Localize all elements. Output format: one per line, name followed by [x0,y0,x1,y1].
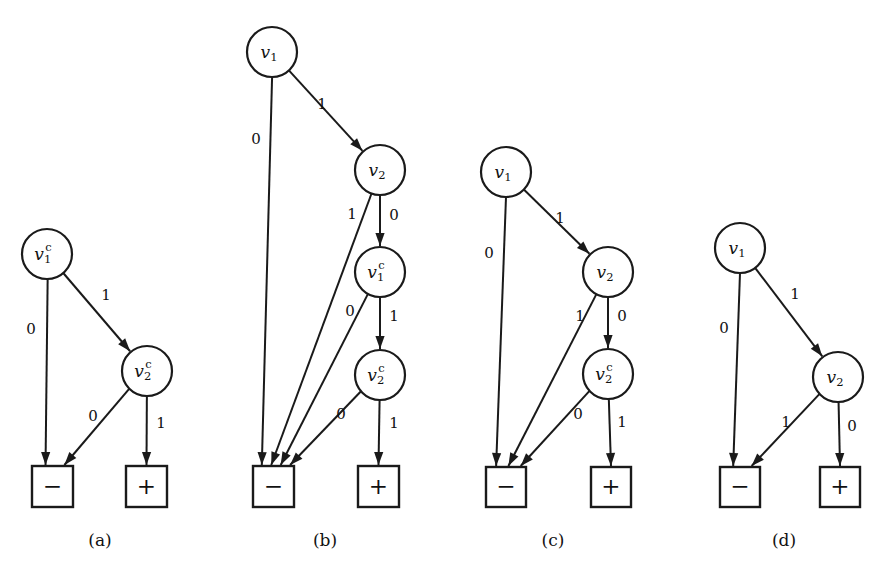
node-a-v2c[interactable]: v2c [122,346,172,396]
arrowhead-b-v1c-to-neg [281,451,291,465]
terminal-d-neg[interactable]: − [720,467,760,507]
arrowhead-b-v2-to-neg [271,451,280,465]
arrowhead-a-v1c-to-neg [41,452,50,465]
edge-a-v1c-to-neg [46,279,48,465]
edge-b-v2c-to-neg [290,391,361,465]
node-c-v2[interactable]: v2 [583,247,633,297]
node-label: v1c [367,258,384,284]
edge-label-b-v2c-to-pos: 1 [389,414,399,432]
minus-terminal-glyph: − [264,473,283,499]
arrowhead-a-v2c-to-pos [142,452,151,465]
panel-caption-a: (a) [88,530,111,550]
panel-caption-b: (b) [313,530,337,550]
terminal-c-pos[interactable]: + [591,467,631,507]
edge-layer: 011001 [484,190,627,467]
edge-b-v2-to-neg [271,194,371,465]
node-c-v2c[interactable]: v2c [583,349,633,399]
edge-c-v1-to-neg [496,197,506,466]
panel-a: 0101−+v1cv2c(a) [22,229,172,550]
edge-label-b-v1-to-v2: 1 [317,95,327,113]
arrowhead-b-v2-to-v1c [375,233,384,246]
edge-b-v1-to-neg [262,77,272,465]
bdd-diagram-svg: 0101−+v1cv2c(a)01100101−+v1v2v1cv2c(b)01… [0,0,891,580]
panel-d: 0110−+v1v2(d) [715,223,863,550]
edge-label-c-v2-to-neg: 1 [575,307,585,325]
edge-label-b-v2-to-neg: 1 [347,205,357,223]
minus-terminal-glyph: − [496,473,515,499]
arrowhead-d-v1-to-neg [729,453,738,466]
terminal-a-neg[interactable]: − [32,466,73,507]
panel-caption-d: (d) [772,530,796,550]
edge-label-c-v1-to-v2: 1 [555,209,565,227]
node-label: v2c [367,361,384,387]
edge-label-a-v2c-to-neg: 0 [88,407,98,425]
edge-label-b-v1c-to-neg: 0 [345,302,355,320]
node-label: v2c [134,357,151,383]
node-label: v1c [34,240,51,266]
edge-a-v1c-to-v2c [63,273,130,351]
node-b-v1[interactable]: v1 [247,27,297,77]
figure-canvas: 0101−+v1cv2c(a)01100101−+v1v2v1cv2c(b)01… [0,0,891,580]
plus-terminal-glyph: + [369,473,388,499]
edge-a-v2c-to-neg [64,389,129,465]
edge-label-d-v1-to-neg: 0 [719,319,729,337]
plus-terminal-glyph: + [601,473,620,499]
panel-c: 011001−+v1v2v2c(c) [481,147,633,550]
node-c-v1[interactable]: v1 [481,147,531,197]
edge-label-b-v2-to-v1c: 0 [389,206,399,224]
terminal-b-pos[interactable]: + [358,466,399,507]
terminal-a-pos[interactable]: + [126,466,167,507]
edge-d-v1-to-neg [733,273,740,466]
arrowhead-d-v2-to-pos [835,453,844,466]
arrowhead-d-v1-to-v2 [811,343,823,356]
terminal-c-neg[interactable]: − [486,467,526,507]
terminal-b-neg[interactable]: − [253,466,294,507]
panel-b: 01100101−+v1v2v1cv2c(b) [247,27,405,550]
edge-label-b-v2c-to-neg: 0 [336,405,346,423]
edge-label-c-v2c-to-neg: 0 [573,405,583,423]
edge-label-d-v2-to-pos: 0 [847,417,857,435]
edge-label-c-v2-to-v2c: 0 [617,307,627,325]
edge-c-v2c-to-neg [521,391,590,466]
node-label: v2c [595,360,612,386]
plus-terminal-glyph: + [137,473,156,499]
arrowhead-b-v2c-to-pos [374,452,383,465]
node-b-v2[interactable]: v2 [355,145,405,195]
arrowhead-c-v2-to-neg [508,452,518,466]
edge-label-c-v2c-to-pos: 1 [617,413,627,431]
terminal-d-pos[interactable]: + [820,467,860,507]
minus-terminal-glyph: − [730,473,749,499]
arrowhead-c-v2c-to-pos [606,453,615,466]
panel-caption-c: (c) [542,530,565,550]
node-b-v1c[interactable]: v1c [355,247,405,297]
arrowhead-c-v1-to-neg [492,453,501,466]
edge-label-d-v2-to-neg: 1 [781,413,791,431]
edge-label-a-v1c-to-neg: 0 [26,320,36,338]
edge-label-a-v1c-to-v2c: 1 [101,286,111,304]
arrowhead-c-v2-to-v2c [603,335,612,348]
arrowhead-b-v1c-to-v2c [375,336,384,349]
edge-d-v1-to-v2 [755,268,822,356]
arrowhead-b-v1-to-neg [258,452,267,465]
edge-label-a-v2c-to-pos: 1 [156,414,166,432]
node-d-v2[interactable]: v2 [813,352,863,402]
plus-terminal-glyph: + [830,473,849,499]
minus-terminal-glyph: − [43,473,62,499]
node-b-v2c[interactable]: v2c [355,350,405,400]
edge-label-d-v1-to-v2: 1 [790,285,800,303]
node-a-v1c[interactable]: v1c [22,229,72,279]
edge-label-b-v1c-to-v2c: 1 [389,307,399,325]
edge-label-b-v1-to-neg: 0 [251,130,261,148]
edge-label-c-v1-to-neg: 0 [484,244,494,262]
node-d-v1[interactable]: v1 [715,223,765,273]
